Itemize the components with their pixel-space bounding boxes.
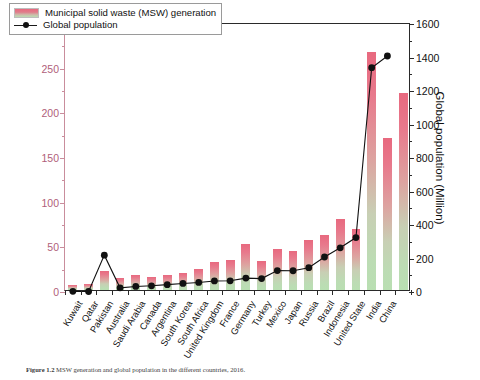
y-axis-left-tick-mark (60, 247, 65, 248)
y-axis-right-tick-mark (409, 259, 414, 260)
population-data-point: United State: 325 Million (353, 234, 360, 241)
population-data-point: Kuwait: 4 Million (69, 288, 76, 295)
y-axis-right-tick-mark (409, 24, 414, 25)
y-axis-left-tick-mark (60, 69, 65, 70)
y-axis-left-tick-label: 50 (47, 241, 59, 253)
population-data-point: Pakistan: 220 Million (101, 252, 108, 259)
y-axis-right-tick-label: 1600 (416, 18, 439, 30)
population-data-point: India: 1339 Million (368, 64, 375, 71)
y-axis-right-minor-tick (409, 141, 412, 142)
legend-label-population: Global population (43, 19, 118, 31)
y-axis-left-tick-mark (60, 158, 65, 159)
figure-caption: Figure 1.2 MSW generation and global pop… (26, 366, 456, 379)
y-axis-right-tick-mark (409, 192, 414, 193)
line-marker-icon (14, 21, 37, 29)
y-axis-left-tick-label: 200 (41, 107, 59, 119)
caption-text: MSW generation and global population in … (56, 366, 245, 373)
y-axis-right-tick-label: 600 (416, 186, 434, 198)
y-axis-right-tick-label: 200 (416, 253, 434, 265)
y-axis-right-minor-tick (409, 74, 412, 75)
legend-item-population: Global population (14, 19, 216, 31)
y-axis-right-minor-tick (409, 208, 412, 209)
population-data-point: Russia: 145 Million (305, 264, 312, 271)
y-axis-left-minor-tick (62, 270, 65, 271)
y-axis-left-minor-tick (62, 91, 65, 92)
chart-legend: Municipal solid waste (MSW) generation G… (9, 3, 222, 35)
y-axis-right-tick-mark (409, 125, 414, 126)
y-axis-right-tick-label: 1000 (416, 119, 439, 131)
y-axis-right-tick-label: 0 (416, 286, 422, 298)
y-axis-left-tick-mark (60, 113, 65, 114)
y-axis-right-minor-tick (409, 41, 412, 42)
y-axis-right-tick-mark (409, 158, 414, 159)
x-axis-tick-mark (65, 290, 66, 295)
y-axis-left-tick-label: 100 (41, 197, 59, 209)
population-data-point: China: 1409 Million (384, 53, 391, 60)
y-axis-left-minor-tick (62, 136, 65, 137)
y-axis-right-tick-mark (409, 58, 414, 59)
y-axis-left-minor-tick (62, 180, 65, 181)
y-axis-left-tick-mark (60, 203, 65, 204)
y-axis-right-tick-label: 400 (416, 219, 434, 231)
y-axis-right-tick-mark (409, 225, 414, 226)
y-axis-left-tick-label: 150 (41, 152, 59, 164)
population-line-path (73, 56, 388, 292)
y-axis-left-tick-label: 250 (41, 63, 59, 75)
y-axis-right-tick-label: 1200 (416, 85, 439, 97)
plot-area: Kuwait: 4 MillionQatar: 3 MillionPakista… (64, 23, 410, 291)
y-axis-left-minor-tick (62, 225, 65, 226)
y-axis-left-tick-label: 0 (53, 286, 59, 298)
line-series: Kuwait: 4 MillionQatar: 3 MillionPakista… (65, 24, 411, 292)
bar-swatch-icon (14, 8, 39, 18)
x-axis-tick-mark (411, 290, 412, 295)
population-data-point: Brazil: 209 Million (321, 254, 328, 261)
y-axis-right-title: Global population (Million) (434, 33, 446, 283)
y-axis-right-minor-tick (409, 175, 412, 176)
legend-label-msw: Municipal solid waste (MSW) generation (45, 7, 216, 19)
figure-container: MSW generation (MT/year) Global populati… (0, 0, 480, 380)
y-axis-right-minor-tick (409, 108, 412, 109)
caption-label: Figure 1.2 (26, 366, 54, 373)
population-data-point: Indonesia: 264 Million (337, 244, 344, 251)
legend-item-msw: Municipal solid waste (MSW) generation (14, 7, 216, 19)
y-axis-right-minor-tick (409, 275, 412, 276)
y-axis-right-tick-mark (409, 91, 414, 92)
y-axis-right-tick-label: 1400 (416, 52, 439, 64)
y-axis-right-minor-tick (409, 242, 412, 243)
y-axis-right-tick-label: 800 (416, 152, 434, 164)
y-axis-left-minor-tick (62, 46, 65, 47)
